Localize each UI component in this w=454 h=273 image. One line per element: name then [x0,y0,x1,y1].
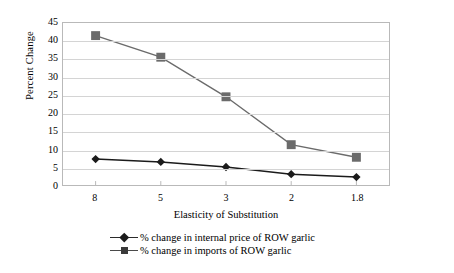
data-point[interactable] [91,155,99,163]
y-axis-tick-labels: 454035302520151050 [38,22,58,186]
data-point[interactable] [222,163,230,171]
plot-area [62,22,390,186]
gridline [63,78,389,79]
x-tick-label: 8 [92,192,97,204]
y-tick-label: 15 [38,126,58,136]
legend-label-price: % change in internal price of ROW garlic [138,231,315,244]
diamond-marker-icon [110,231,138,244]
y-tick-label: 5 [38,163,58,173]
gridline [63,132,389,133]
data-point[interactable] [352,173,360,181]
y-tick-label: 20 [38,108,58,118]
x-axis-tick-labels: 85321.8 [62,192,390,206]
data-point[interactable] [352,153,361,162]
y-tick-label: 0 [38,181,58,191]
y-tick-label: 35 [38,53,58,63]
data-point[interactable] [287,140,296,149]
y-tick-label: 25 [38,90,58,100]
gridline [63,41,389,42]
chart-container: Percent Change 454035302520151050 85321.… [0,0,454,273]
gridline [63,59,389,60]
y-tick-label: 40 [38,35,58,45]
y-tick-label: 10 [38,145,58,155]
plot-svg [63,23,389,185]
x-tick-label: 1.8 [351,192,364,204]
y-tick-label: 45 [38,17,58,27]
y-tick-label: 30 [38,72,58,82]
y-axis-title: Percent Change [24,0,35,136]
legend-item-price[interactable]: % change in internal price of ROW garlic [110,231,350,244]
x-axis-title: Elasticity of Substitution [62,209,390,220]
data-point[interactable] [287,170,295,178]
legend-label-imports: % change in imports of ROW garlic [138,244,291,257]
gridline [63,96,389,97]
legend-item-imports[interactable]: % change in imports of ROW garlic [110,244,350,257]
square-marker-icon [110,244,138,257]
data-point[interactable] [157,158,165,166]
chart-legend: % change in internal price of ROW garlic… [110,231,350,257]
gridline [63,169,389,170]
gridline [63,114,389,115]
data-point[interactable] [91,31,100,40]
x-tick-label: 2 [289,192,294,204]
x-tick-label: 3 [224,192,229,204]
x-tick-label: 5 [158,192,163,204]
gridline [63,151,389,152]
